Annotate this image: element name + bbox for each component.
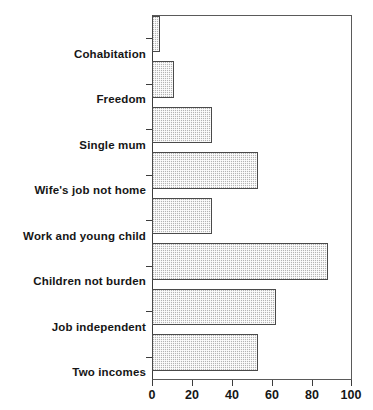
bar-children-not-burden <box>152 243 328 280</box>
bar-two-incomes <box>152 334 258 371</box>
category-label-wifes-job-not-home: Wife's job not home <box>0 184 146 196</box>
bar-single-mum <box>152 107 212 143</box>
bars-layer <box>152 15 352 380</box>
category-label-job-independent: Job independent <box>0 321 146 333</box>
category-label-cohabitation: Cohabitation <box>0 48 146 60</box>
bar-job-independent <box>152 289 276 325</box>
x-tick-label-0: 0 <box>132 388 172 402</box>
x-tick-100 <box>351 380 352 386</box>
x-tick-0 <box>152 380 153 386</box>
x-tick-label-100: 100 <box>331 388 371 402</box>
category-label-single-mum: Single mum <box>0 139 146 151</box>
x-tick-label-20: 20 <box>172 388 212 402</box>
category-label-children-not-burden: Children not burden <box>0 275 146 287</box>
x-tick-20 <box>192 380 193 386</box>
category-axis-labels: Cohabitation Freedom Single mum Wife's j… <box>0 15 146 380</box>
bar-wifes-job-not-home <box>152 152 258 189</box>
bar-cohabitation <box>152 16 160 52</box>
x-tick-40 <box>232 380 233 386</box>
x-tick-60 <box>272 380 273 386</box>
x-tick-label-80: 80 <box>292 388 332 402</box>
x-tick-label-40: 40 <box>212 388 252 402</box>
category-label-two-incomes: Two incomes <box>0 366 146 378</box>
bar-work-and-young-child <box>152 198 212 234</box>
x-tick-80 <box>312 380 313 386</box>
category-label-freedom: Freedom <box>0 93 146 105</box>
bar-freedom <box>152 61 174 98</box>
category-label-work-and-young-child: Work and young child <box>0 230 146 242</box>
x-tick-label-60: 60 <box>252 388 292 402</box>
bar-chart: Cohabitation Freedom Single mum Wife's j… <box>0 0 373 410</box>
